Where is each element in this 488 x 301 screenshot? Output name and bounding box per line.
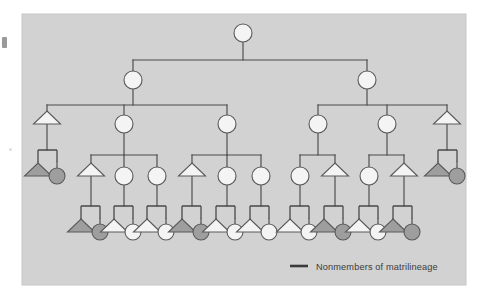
female-node-member: [309, 115, 327, 133]
female-node-member: [115, 115, 133, 133]
kinship-diagram: Nonmembers of matrilineage: [0, 0, 488, 301]
female-node-member: [378, 115, 396, 133]
female-node-nonmember: [449, 168, 465, 184]
legend-label: Nonmembers of matrilineage: [316, 262, 438, 272]
female-node-member: [124, 71, 142, 89]
page-edge-artifact-mid: [9, 148, 12, 151]
female-node-member: [252, 167, 270, 185]
figure-root: Nonmembers of matrilineage: [0, 0, 488, 301]
female-node-member: [360, 167, 378, 185]
diagram-panel: [22, 14, 466, 285]
female-node-member: [261, 224, 277, 240]
female-node-member: [234, 24, 252, 42]
female-node-member: [358, 71, 376, 89]
female-node-member: [291, 167, 309, 185]
female-node-member: [218, 167, 236, 185]
female-node-member: [218, 115, 236, 133]
page-edge-artifact-top: [2, 37, 7, 48]
female-node-nonmember: [49, 168, 65, 184]
female-node-member: [115, 167, 133, 185]
female-node-member: [148, 167, 166, 185]
female-node-nonmember: [404, 224, 420, 240]
